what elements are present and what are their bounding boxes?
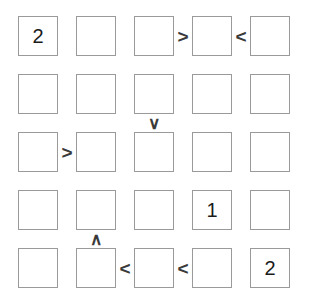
grid-cell-r1c3[interactable]	[134, 16, 174, 56]
constraint-v-r2r3-c3: ∨	[142, 115, 166, 131]
grid-cell-r3c3[interactable]	[134, 132, 174, 172]
grid-cell-r5c5[interactable]: 2	[250, 248, 290, 288]
grid-cell-r2c3[interactable]	[134, 74, 174, 114]
grid-cell-r4c4[interactable]: 1	[192, 190, 232, 230]
constraint-v-r4r5-c2: ∧	[84, 231, 108, 247]
grid-cell-r2c1[interactable]	[18, 74, 58, 114]
grid-cell-r2c5[interactable]	[250, 74, 290, 114]
grid-cell-r4c1[interactable]	[18, 190, 58, 230]
constraint-h-r1-c3c4: >	[174, 24, 192, 48]
grid-cell-r1c1[interactable]: 2	[18, 16, 58, 56]
grid-cell-r3c5[interactable]	[250, 132, 290, 172]
grid-cell-r3c2[interactable]	[76, 132, 116, 172]
grid-cell-r2c2[interactable]	[76, 74, 116, 114]
futoshiki-puzzle: 212><><<∨∧	[0, 0, 312, 307]
grid-cell-r2c4[interactable]	[192, 74, 232, 114]
puzzle-grid: 212><><<∨∧	[0, 0, 312, 307]
grid-cell-r1c2[interactable]	[76, 16, 116, 56]
grid-cell-r4c2[interactable]	[76, 190, 116, 230]
grid-cell-r4c3[interactable]	[134, 190, 174, 230]
grid-cell-r5c1[interactable]	[18, 248, 58, 288]
grid-cell-r3c1[interactable]	[18, 132, 58, 172]
constraint-h-r1-c4c5: <	[232, 24, 250, 48]
constraint-h-r5-c2c3: <	[116, 256, 134, 280]
grid-cell-r5c2[interactable]	[76, 248, 116, 288]
grid-cell-r4c5[interactable]	[250, 190, 290, 230]
constraint-h-r5-c3c4: <	[174, 256, 192, 280]
grid-cell-r1c5[interactable]	[250, 16, 290, 56]
grid-cell-r5c4[interactable]	[192, 248, 232, 288]
grid-cell-r5c3[interactable]	[134, 248, 174, 288]
constraint-h-r3-c1c2: >	[58, 140, 76, 164]
grid-cell-r3c4[interactable]	[192, 132, 232, 172]
grid-cell-r1c4[interactable]	[192, 16, 232, 56]
